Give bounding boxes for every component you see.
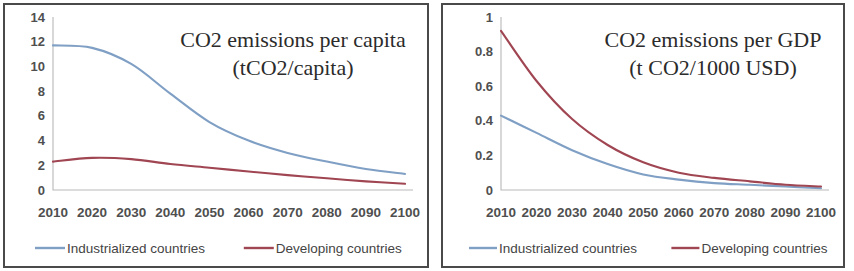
x-axis-tick-label: 2040	[593, 205, 623, 220]
x-axis-tick-label: 2010	[38, 205, 68, 220]
x-axis-ticks-right: 2010202020302040205020602070208020902100	[486, 205, 836, 220]
chart-title-line1: CO2 emissions per capita	[180, 27, 406, 52]
y-axis-tick-label: 14	[31, 10, 46, 25]
y-axis-tick-label: 10	[31, 59, 45, 74]
chart-title-line1: CO2 emissions per GDP	[605, 27, 822, 52]
x-axis-tick-label: 2090	[770, 205, 800, 220]
legend-label: Developing countries	[701, 241, 827, 256]
x-axis-tick-label: 2030	[557, 205, 587, 220]
x-axis-tick-label: 2050	[194, 205, 224, 220]
x-axis-tick-label: 2050	[628, 205, 658, 220]
y-axis-tick-label: 0.6	[475, 79, 493, 94]
legend-label: Industrialized countries	[67, 241, 205, 256]
x-axis-tick-label: 2100	[806, 205, 836, 220]
dual-chart-figure: 02468101214 CO2 emissions per capita (tC…	[0, 0, 854, 271]
x-axis-tick-label: 2020	[77, 205, 107, 220]
chart-title-line2: (tCO2/capita)	[233, 55, 354, 80]
x-axis-tick-label: 2090	[351, 205, 381, 220]
legend-label: Industrialized countries	[499, 241, 637, 256]
series-line-developing-countries	[53, 158, 405, 184]
y-axis-tick-label: 12	[31, 34, 45, 49]
y-axis-tick-label: 4	[38, 133, 46, 148]
x-axis-ticks-left: 2010202020302040205020602070208020902100	[38, 205, 420, 220]
y-axis-ticks-left: 02468101214	[31, 10, 46, 198]
x-axis-tick-label: 2070	[273, 205, 303, 220]
y-axis-tick-label: 0.4	[475, 113, 494, 128]
legend-left: Industrialized countriesDeveloping count…	[35, 241, 402, 256]
y-axis-tick-label: 2	[38, 158, 45, 173]
x-axis-tick-label: 2060	[234, 205, 264, 220]
y-axis-tick-label: 0	[486, 183, 493, 198]
chart-panel-co2-per-gdp: 00.20.40.60.81 CO2 emissions per GDP (t …	[441, 3, 845, 268]
x-axis-tick-label: 2080	[735, 205, 765, 220]
co2-per-capita-chart: 02468101214 CO2 emissions per capita (tC…	[5, 5, 427, 266]
y-axis-tick-label: 6	[38, 108, 45, 123]
x-axis-tick-label: 2070	[699, 205, 729, 220]
x-axis-tick-label: 2100	[390, 205, 420, 220]
x-axis-tick-label: 2040	[155, 205, 185, 220]
y-axis-tick-label: 0.8	[475, 44, 493, 59]
x-axis-tick-label: 2060	[664, 205, 694, 220]
legend-right: Industrialized countriesDeveloping count…	[469, 241, 828, 256]
y-axis-tick-label: 0	[38, 183, 45, 198]
chart-panel-co2-per-capita: 02468101214 CO2 emissions per capita (tC…	[3, 3, 429, 268]
y-axis-ticks-right: 00.20.40.60.81	[475, 10, 494, 198]
x-axis-tick-label: 2030	[116, 205, 146, 220]
x-axis-tick-label: 2080	[312, 205, 342, 220]
series-line-industrialized-countries	[501, 116, 821, 189]
y-axis-tick-label: 1	[486, 10, 493, 25]
y-axis-tick-label: 0.2	[475, 148, 493, 163]
panel-divider-gap	[429, 0, 441, 271]
x-axis-tick-label: 2010	[486, 205, 516, 220]
chart-title-line2: (t CO2/1000 USD)	[629, 55, 796, 80]
co2-per-gdp-chart: 00.20.40.60.81 CO2 emissions per GDP (t …	[443, 5, 843, 266]
legend-label: Developing countries	[276, 241, 402, 256]
y-axis-tick-label: 8	[38, 84, 45, 99]
x-axis-tick-label: 2020	[522, 205, 552, 220]
